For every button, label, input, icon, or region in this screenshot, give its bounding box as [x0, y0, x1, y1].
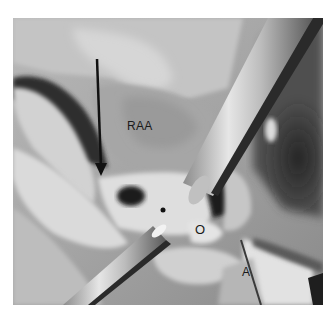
- label-o: O: [195, 223, 205, 236]
- surgical-photo: RAA O A: [13, 18, 323, 305]
- label-a: A: [242, 266, 250, 278]
- label-raa: RAA: [127, 120, 153, 132]
- photo-content: [13, 18, 323, 305]
